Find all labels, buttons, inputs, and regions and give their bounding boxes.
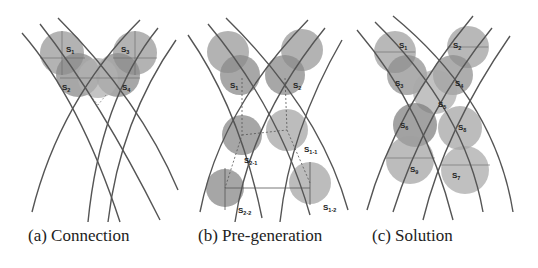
panel-pre-generation: S1 S2 S2-1 S1-1 S2-2 S1-2 (b) Pre-genera… bbox=[180, 0, 360, 268]
panel-solution: S1 S2 S3 S4 S5 S6 S8 S9 S7 (c) Solution bbox=[355, 0, 538, 268]
caption-connection: (a) Connection bbox=[28, 226, 130, 246]
pre-generation-diagram: S1 S2 S2-1 S1-1 S2-2 S1-2 bbox=[180, 0, 360, 225]
panel-connection: S1 S3 S2 S4 (a) Connection bbox=[0, 0, 180, 268]
connection-diagram: S1 S3 S2 S4 bbox=[0, 0, 180, 225]
svg-text:S2-2: S2-2 bbox=[238, 206, 251, 216]
caption-solution: (c) Solution bbox=[372, 226, 453, 246]
caption-pre-generation: (b) Pre-generation bbox=[198, 226, 322, 246]
solution-diagram: S1 S2 S3 S4 S5 S6 S8 S9 S7 bbox=[355, 0, 538, 225]
svg-text:S1-2: S1-2 bbox=[323, 203, 336, 213]
svg-text:S1-1: S1-1 bbox=[304, 145, 317, 155]
